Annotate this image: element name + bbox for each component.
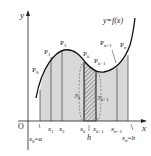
- tick-x1: x1: [47, 125, 54, 134]
- left-endpoint-label: x0=a: [28, 135, 43, 144]
- point-p1: P1: [44, 48, 51, 57]
- curve-label: y=f(x): [102, 16, 123, 25]
- point-pk: Pk: [83, 50, 90, 59]
- tick-xk: xk: [79, 125, 86, 134]
- point-p0: P0: [32, 66, 39, 75]
- tick-xk1: xk+1: [92, 125, 104, 134]
- tick-xn1: xn−1: [110, 125, 122, 134]
- point-pk1: Pk+1: [94, 57, 106, 66]
- point-pn1: Pn−1: [100, 39, 112, 48]
- y-axis-label: y: [19, 10, 24, 20]
- tick-x2: x2: [58, 125, 65, 134]
- origin-label: O: [18, 122, 24, 131]
- point-p2: P2: [60, 39, 67, 48]
- point-pn: Pn: [120, 41, 127, 50]
- right-endpoint-label: xn=b: [121, 134, 136, 143]
- hatched-strip: [84, 62, 96, 121]
- x-axis-label: x: [141, 123, 146, 133]
- trapezoid-rule-diagram: y x O y=f(x) P0 P1 P2 Pk Pk+1 Pn−1 Pn yk…: [0, 0, 151, 156]
- width-label: h: [87, 133, 91, 142]
- y-axis-arrow-icon: [26, 10, 30, 16]
